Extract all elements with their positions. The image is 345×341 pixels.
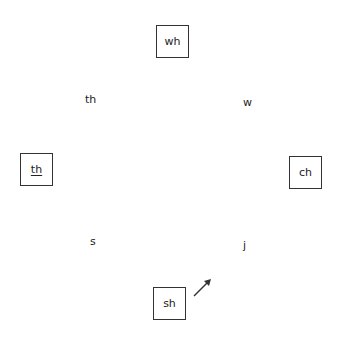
box-wh: wh: [156, 25, 189, 58]
box-label-th: th: [31, 163, 42, 176]
label-s-lower-left: s: [90, 236, 96, 248]
box-th: th: [20, 153, 53, 186]
box-label-ch: ch: [299, 166, 312, 179]
box-label-sh: sh: [163, 297, 176, 310]
box-sh: sh: [153, 287, 186, 320]
label-j-lower-right: j: [243, 240, 246, 252]
label-th-upper-left: th: [85, 94, 96, 106]
box-label-wh: wh: [165, 35, 181, 48]
box-ch: ch: [289, 156, 322, 189]
arrow-icon: [192, 276, 214, 298]
label-w-upper-right: w: [243, 97, 252, 109]
